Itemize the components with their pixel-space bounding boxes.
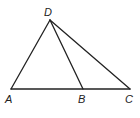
segment-dc (50, 20, 130, 89)
label-c: C (125, 93, 133, 105)
triangle-diagram: D A B C (0, 0, 140, 118)
label-b: B (78, 93, 85, 105)
label-d: D (44, 6, 52, 18)
segment-db (50, 20, 83, 89)
segment-da (11, 20, 50, 89)
label-a: A (4, 93, 12, 105)
